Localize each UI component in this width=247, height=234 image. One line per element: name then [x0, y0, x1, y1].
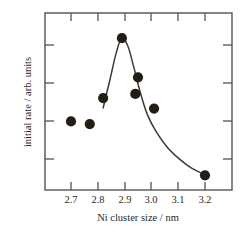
data-point	[66, 116, 76, 126]
y-axis-title: initial rate / arb. units	[22, 57, 33, 147]
scatter-plot: 2.7 2.8 2.9 3.0 3.1 3.2 Ni cluster size …	[0, 0, 247, 234]
data-point	[98, 93, 108, 103]
data-point	[85, 119, 95, 129]
x-axis-title: Ni cluster size / nm	[97, 212, 179, 223]
data-point	[130, 89, 140, 99]
x-tick-label-2: 2.9	[118, 194, 131, 205]
plot-frame	[45, 13, 232, 190]
x-axis-ticks	[71, 182, 205, 190]
data-point	[149, 104, 159, 114]
y-axis-right-ticks	[223, 45, 232, 159]
x-tick-label-3: 3.0	[144, 194, 157, 205]
x-tick-labels: 2.7 2.8 2.9 3.0 3.1 3.2	[64, 194, 211, 205]
x-tick-label-1: 2.8	[91, 194, 104, 205]
x-tick-label-5: 3.2	[198, 194, 211, 205]
x-tick-label-4: 3.1	[171, 194, 184, 205]
data-point-group	[66, 33, 210, 180]
x-axis-top-ticks	[71, 13, 205, 21]
data-point	[200, 170, 210, 180]
chart-figure: 2.7 2.8 2.9 3.0 3.1 3.2 Ni cluster size …	[0, 0, 247, 234]
x-tick-label-0: 2.7	[64, 194, 77, 205]
data-point	[117, 33, 127, 43]
y-axis-ticks	[45, 45, 54, 159]
data-point	[133, 72, 143, 82]
